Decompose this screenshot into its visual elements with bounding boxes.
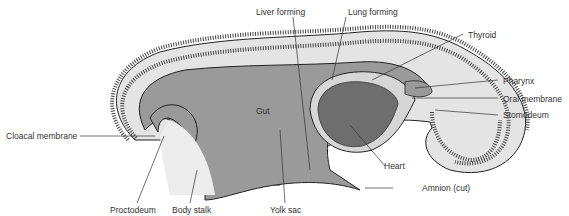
label-gut: Gut (256, 106, 270, 116)
label-liver-forming: Liver forming (256, 7, 305, 17)
label-body-stalk: Body stalk (172, 205, 211, 215)
label-heart: Heart (384, 161, 405, 171)
label-lung-forming: Lung forming (348, 7, 398, 17)
label-amnion-cut: Amnion (cut) (422, 183, 470, 193)
label-pharynx: Pharynx (503, 76, 534, 86)
label-cloacal-membrane: Cloacal membrane (6, 131, 77, 141)
label-thyroid: Thyroid (468, 30, 496, 40)
label-oral-membrane: Oral membrane (503, 94, 562, 104)
label-proctodeum: Proctodeum (110, 205, 156, 215)
label-stomodeum: Stomodeum (503, 110, 549, 120)
label-yolk-sac: Yolk sac (270, 205, 301, 215)
